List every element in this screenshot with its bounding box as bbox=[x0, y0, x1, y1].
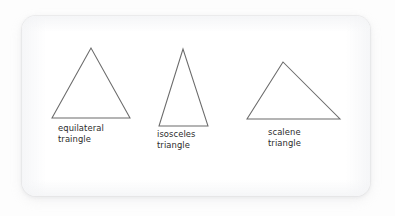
page-root: equilateral traingle isosceles triangle … bbox=[0, 0, 395, 216]
triangles-diagram bbox=[0, 0, 395, 216]
isosceles-triangle-label: isosceles triangle bbox=[157, 129, 196, 151]
scalene-triangle-label: scalene triangle bbox=[268, 127, 301, 149]
scalene-triangle-shape bbox=[247, 62, 340, 119]
equilateral-triangle-label: equilateral traingle bbox=[58, 123, 104, 145]
equilateral-triangle-shape bbox=[52, 48, 130, 118]
isosceles-triangle-shape bbox=[159, 49, 208, 126]
